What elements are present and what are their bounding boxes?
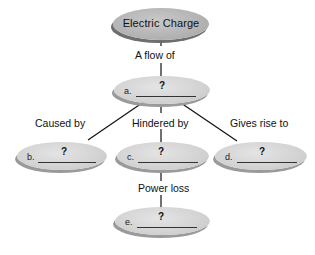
node-e-letter: e. bbox=[125, 217, 133, 227]
node-b-letter: b. bbox=[27, 152, 35, 162]
node-d-blank bbox=[237, 162, 297, 163]
node-b-answer: ? bbox=[58, 146, 70, 157]
node-a-answer: ? bbox=[156, 80, 168, 91]
root-node: Electric Charge bbox=[113, 8, 209, 40]
concept-map: Electric Charge A flow of a. ? Caused by… bbox=[0, 0, 315, 255]
node-b-blank bbox=[38, 162, 96, 163]
node-e: e. ? bbox=[115, 207, 210, 235]
node-c-letter: c. bbox=[127, 152, 134, 162]
link-label-power-loss: Power loss bbox=[137, 182, 190, 194]
node-a-letter: a. bbox=[124, 86, 132, 96]
link-label-caused-by: Caused by bbox=[34, 117, 86, 129]
root-label: Electric Charge bbox=[113, 17, 209, 29]
node-c: c. ? bbox=[117, 142, 209, 170]
node-c-answer: ? bbox=[155, 146, 167, 157]
node-b: b. ? bbox=[17, 142, 107, 170]
node-a-blank bbox=[136, 96, 196, 97]
node-d-answer: ? bbox=[256, 146, 268, 157]
link-label-flow-of: A flow of bbox=[134, 49, 176, 61]
node-d: d. ? bbox=[215, 142, 307, 170]
link-label-gives-rise-to: Gives rise to bbox=[229, 117, 289, 129]
node-e-answer: ? bbox=[155, 211, 167, 222]
node-c-blank bbox=[138, 162, 198, 163]
link-label-hindered-by: Hindered by bbox=[131, 117, 190, 129]
node-d-letter: d. bbox=[225, 152, 233, 162]
node-e-blank bbox=[137, 227, 197, 228]
node-a: a. ? bbox=[114, 76, 210, 104]
